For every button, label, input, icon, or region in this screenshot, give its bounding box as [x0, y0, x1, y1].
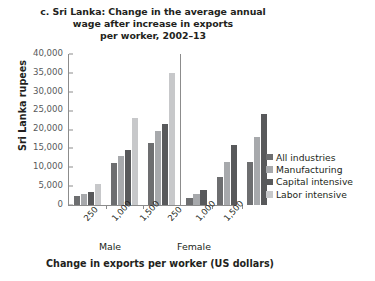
x-axis-group-cats: 2501,0001,500	[152, 208, 236, 238]
chart-figure: c. Sri Lanka: Change in the average annu…	[0, 0, 375, 281]
y-axis-tick-label: 10,000	[33, 161, 63, 171]
plot-area: 05,00010,00015,00020,00025,00030,00035,0…	[68, 54, 236, 206]
x-axis-group-cats: 2501,0001,500	[68, 208, 152, 238]
bar	[74, 196, 80, 205]
bar	[186, 198, 192, 205]
x-axis-group-labels: MaleFemale	[68, 241, 236, 252]
x-axis-category: 1,500	[208, 208, 236, 238]
legend-item[interactable]: Labor intensive	[266, 188, 353, 200]
y-axis-label: Sri Lanka rupees	[17, 46, 28, 166]
legend-item[interactable]: Manufacturing	[266, 163, 353, 175]
bar	[155, 131, 161, 205]
gender-group	[69, 54, 180, 205]
bar	[231, 145, 237, 205]
bar-group	[106, 54, 143, 205]
bar	[81, 194, 87, 205]
bar	[193, 194, 199, 205]
bar	[132, 118, 138, 205]
bar	[111, 163, 117, 205]
bar	[95, 184, 101, 205]
y-axis-tick-label: 5,000	[38, 179, 63, 189]
chart-title-line-3: per worker, 2002–13	[38, 30, 268, 42]
x-axis-category: 1,500	[124, 208, 152, 238]
x-axis-label: Change in exports per worker (US dollars…	[0, 258, 320, 269]
bar-group	[181, 54, 211, 205]
gender-group	[180, 54, 271, 205]
y-axis-tick-label: 20,000	[33, 123, 63, 133]
chart-title-line-1: c. Sri Lanka: Change in the average annu…	[38, 6, 268, 18]
bar-group	[69, 54, 106, 205]
bar	[125, 150, 131, 205]
x-axis-category: 250	[68, 208, 96, 238]
legend-swatch	[266, 166, 273, 173]
legend-swatch	[266, 154, 273, 161]
legend-label: All industries	[276, 152, 336, 163]
y-axis-tick-label: 30,000	[33, 85, 63, 95]
bar	[254, 137, 260, 205]
bar	[224, 162, 230, 205]
bar	[162, 124, 168, 205]
legend-item[interactable]: Capital intensive	[266, 176, 353, 188]
bar-group	[143, 54, 180, 205]
chart-title: c. Sri Lanka: Change in the average annu…	[38, 6, 268, 43]
legend-label: Labor intensive	[276, 189, 347, 200]
legend-swatch	[266, 179, 273, 186]
y-axis-tick-label: 0	[58, 198, 63, 208]
bar	[148, 143, 154, 205]
y-axis-tick-label: 15,000	[33, 142, 63, 152]
bar-groups	[69, 54, 236, 205]
y-axis-tick-label: 25,000	[33, 104, 63, 114]
legend-swatch	[266, 191, 273, 198]
bar	[247, 162, 253, 205]
chart-title-line-2: wage after increase in exports	[38, 18, 268, 30]
legend-label: Capital intensive	[276, 176, 353, 187]
x-axis-group-label: Female	[152, 241, 236, 252]
bar	[217, 177, 223, 205]
bar	[88, 192, 94, 205]
x-axis-category: 250	[152, 208, 180, 238]
x-axis-category: 1,000	[180, 208, 208, 238]
x-axis-category-labels: 2501,0001,5002501,0001,500	[68, 208, 236, 238]
bar	[118, 156, 124, 205]
legend-label: Manufacturing	[276, 164, 343, 175]
bar	[169, 73, 175, 205]
x-axis-category: 1,000	[96, 208, 124, 238]
legend-item[interactable]: All industries	[266, 151, 353, 163]
x-axis-group-label: Male	[68, 241, 152, 252]
bar-group	[212, 54, 242, 205]
chart-legend: All industriesManufacturingCapital inten…	[266, 151, 353, 201]
y-axis-tick-label: 40,000	[33, 47, 63, 57]
y-axis-tick-label: 35,000	[33, 66, 63, 76]
